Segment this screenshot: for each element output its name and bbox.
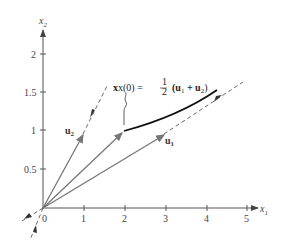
eigen-lines — [22, 82, 243, 240]
x-tick-1: 1 — [81, 213, 86, 224]
u1-neg-flow-arrow-icon — [24, 213, 32, 219]
vector-u1 — [43, 135, 164, 208]
y-axis-label: x2 — [38, 15, 47, 29]
x-tick-2: 2 — [122, 213, 127, 224]
y-tick-2: 2 — [31, 49, 36, 60]
x-axis-label: x1 — [259, 203, 268, 217]
phase-plane-diagram: 0 1 2 3 4 5 0.5 1 1.5 2 x1 x2 — [0, 0, 281, 249]
u2-neg-flow-arrow-icon — [33, 225, 37, 233]
x-tick-0: 0 — [42, 213, 47, 224]
vector-u2 — [43, 135, 83, 208]
u1-label: u1 — [165, 135, 175, 148]
vector-half-sum — [43, 133, 122, 208]
trajectory-curve — [124, 90, 217, 131]
u2-flow-arrow-icon — [90, 109, 95, 118]
pointer-squiggle — [124, 93, 127, 125]
initial-condition-label: xx(0) = — [113, 82, 143, 94]
sum-expression: (u1 + u2) — [172, 82, 208, 95]
y-tick-0.5: 0.5 — [24, 164, 37, 175]
x-tick-3: 3 — [163, 213, 168, 224]
x-tick-5: 5 — [244, 213, 249, 224]
vectors — [43, 133, 164, 208]
u1-flow-arrow-icon — [214, 95, 222, 102]
fraction-half: 1 2 — [162, 76, 170, 97]
x-tick-4: 4 — [204, 213, 209, 224]
u2-label: u2 — [65, 125, 75, 138]
axes: 0 1 2 3 4 5 0.5 1 1.5 2 x1 x2 — [24, 15, 268, 224]
u1-dashed-line-neg — [22, 208, 43, 221]
u2-dashed-line — [83, 84, 108, 134]
y-tick-1: 1 — [31, 125, 36, 136]
y-tick-1.5: 1.5 — [24, 87, 37, 98]
